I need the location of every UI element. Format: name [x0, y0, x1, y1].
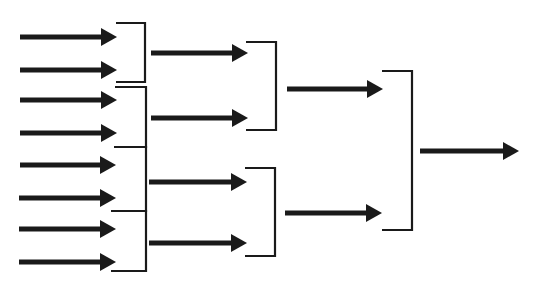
arrow-shaft — [287, 87, 368, 92]
bracket-round-2-2 — [245, 168, 275, 256]
arrow-round-3-1 — [287, 80, 383, 98]
arrow-round-1-6 — [19, 189, 116, 207]
arrow-head-icon — [100, 156, 116, 174]
arrow-shaft — [20, 68, 102, 73]
arrow-round-1-4 — [20, 124, 117, 142]
bracket-round-2-1 — [246, 42, 276, 130]
arrow-shaft — [149, 241, 232, 246]
arrow-head-icon — [101, 91, 117, 109]
arrow-shaft — [20, 35, 102, 40]
arrow-round-1-7 — [19, 220, 116, 238]
arrow-head-icon — [232, 44, 248, 62]
arrow-shaft — [20, 131, 102, 136]
arrow-head-icon — [101, 28, 117, 46]
arrow-shaft — [151, 116, 233, 121]
arrow-head-icon — [100, 189, 116, 207]
arrow-shaft — [149, 180, 232, 185]
arrow-head-icon — [100, 220, 116, 238]
bracket-round-1-4 — [111, 211, 146, 271]
brackets-layer — [111, 23, 412, 271]
arrow-round-1-2 — [20, 61, 117, 79]
arrow-round-3-2 — [285, 204, 382, 222]
arrow-head-icon — [367, 80, 383, 98]
arrow-head-icon — [232, 109, 248, 127]
arrow-shaft — [19, 260, 101, 265]
arrow-head-icon — [503, 142, 519, 160]
arrow-shaft — [20, 163, 101, 168]
arrow-head-icon — [101, 124, 117, 142]
arrow-round-2-3 — [149, 173, 247, 191]
bracket-round-1-1 — [116, 23, 145, 82]
arrow-round-1-5 — [20, 156, 116, 174]
arrow-round-2-2 — [151, 109, 248, 127]
arrow-shaft — [151, 51, 233, 56]
arrow-shaft — [19, 227, 101, 232]
arrow-round-2-1 — [151, 44, 248, 62]
arrow-round-1-3 — [20, 91, 117, 109]
bracket-round-1-2 — [115, 87, 146, 147]
arrow-shaft — [420, 149, 504, 154]
arrow-round-1-1 — [20, 28, 117, 46]
arrow-round-2-4 — [149, 234, 247, 252]
arrow-head-icon — [366, 204, 382, 222]
arrow-shaft — [20, 98, 102, 103]
arrow-head-icon — [101, 61, 117, 79]
arrow-shaft — [19, 196, 101, 201]
arrow-head-icon — [100, 253, 116, 271]
bracket-diagram — [0, 0, 536, 285]
arrow-head-icon — [231, 173, 247, 191]
bracket-round-3-1 — [382, 71, 412, 230]
arrow-shaft — [285, 211, 367, 216]
bracket-round-1-3 — [114, 147, 146, 211]
arrow-head-icon — [231, 234, 247, 252]
arrow-final-1 — [420, 142, 519, 160]
arrow-round-1-8 — [19, 253, 116, 271]
arrows-layer — [19, 28, 519, 271]
